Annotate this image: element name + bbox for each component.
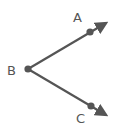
ray-ba xyxy=(28,23,106,69)
vertex-b-point xyxy=(24,65,31,72)
label-a: A xyxy=(73,10,82,25)
label-b: B xyxy=(7,63,16,78)
ray-bc xyxy=(28,69,106,115)
point-c xyxy=(87,102,94,109)
angle-diagram: A B C xyxy=(0,0,122,125)
point-a xyxy=(86,28,93,35)
label-c: C xyxy=(76,111,85,125)
